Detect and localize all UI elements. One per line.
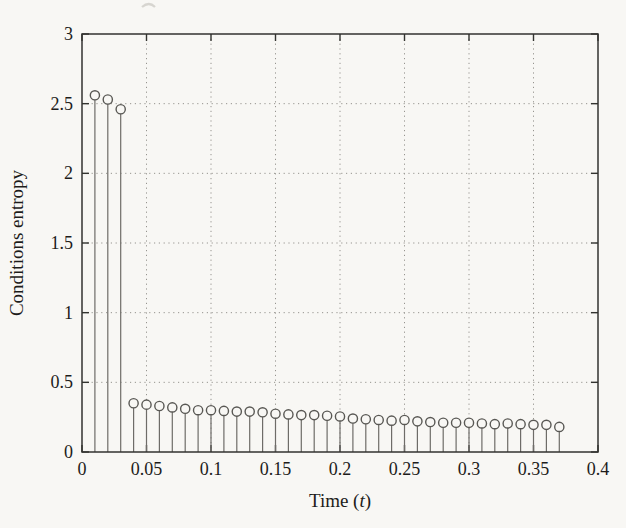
stem-marker-circle [168,403,177,412]
stem-marker-circle [542,420,551,429]
stem-marker-circle [116,105,125,114]
stem-point [374,415,383,452]
stem-point [452,418,461,452]
stem-point [155,401,164,452]
stem-point [310,410,319,452]
stem-point [219,406,228,452]
x-axis-label-text: Time ( [309,490,360,512]
stem-point [464,418,473,452]
stem-marker-circle [387,416,396,425]
tick-labels: 00.050.10.150.20.250.30.350.400.511.522.… [51,24,610,479]
stem-point [400,415,409,452]
stem-marker-circle [477,419,486,428]
x-tick-label: 0.05 [131,459,163,479]
stem-marker-circle [400,415,409,424]
stem-marker-circle [529,420,538,429]
stem-marker-circle [245,407,254,416]
stem-marker-circle [310,410,319,419]
x-tick-label: 0.4 [587,459,610,479]
stem-point [116,105,125,452]
stem-marker-circle [516,420,525,429]
stem-point [348,414,357,452]
x-axis-label: Time (t) [309,490,371,512]
stem-point [555,422,564,452]
stem-point [529,420,538,452]
stem-marker-circle [155,401,164,410]
stem-series [90,91,564,452]
y-tick-label: 0.5 [51,372,74,392]
stem-point [361,415,370,452]
stem-marker-circle [348,414,357,423]
stem-marker-circle [361,415,370,424]
stem-marker-circle [297,410,306,419]
stem-point [206,406,215,452]
stem-marker-circle [439,418,448,427]
stem-marker-circle [335,412,344,421]
stem-point [103,95,112,452]
y-tick-label: 3 [64,24,73,44]
stem-marker-circle [194,406,203,415]
stem-marker-circle [232,407,241,416]
stem-point [232,407,241,452]
stem-chart: 00.050.10.150.20.250.30.350.400.511.522.… [0,0,626,528]
x-tick-label: 0 [78,459,87,479]
stem-marker-circle [323,411,332,420]
stem-marker-circle [452,418,461,427]
stem-point [284,410,293,452]
stem-marker-circle [503,419,512,428]
x-tick-label: 0.3 [458,459,481,479]
stem-point [490,420,499,452]
stem-point [387,416,396,452]
x-tick-label: 0.35 [518,459,550,479]
stem-point [271,409,280,452]
x-tick-label: 0.1 [200,459,223,479]
x-tick-label: 0.2 [329,459,352,479]
stem-marker-circle [219,406,228,415]
x-axis-label-suffix: ) [365,490,371,512]
stem-point [194,406,203,452]
stem-point [542,420,551,452]
y-tick-label: 2 [64,163,73,183]
stem-marker-circle [464,418,473,427]
stem-point [142,400,151,452]
y-tick-label: 1.5 [51,233,74,253]
stem-point [129,399,138,452]
stem-marker-circle [271,409,280,418]
stem-point [413,417,422,452]
y-tick-label: 1 [64,303,73,323]
x-tick-label: 0.25 [389,459,421,479]
stem-point [439,418,448,452]
stem-marker-circle [206,406,215,415]
stem-point [426,417,435,452]
stem-marker-circle [555,422,564,431]
stem-point [335,412,344,452]
stem-marker-circle [103,95,112,104]
stem-point [90,91,99,452]
y-tick-label: 2.5 [51,94,74,114]
figure-scan: 00.050.10.150.20.250.30.350.400.511.522.… [0,0,626,528]
stem-point [245,407,254,452]
stem-point [516,420,525,452]
grid [82,34,598,452]
stem-marker-circle [374,415,383,424]
stem-point [503,419,512,452]
stem-point [181,404,190,452]
stem-point [258,408,267,452]
stem-marker-circle [129,399,138,408]
stem-point [168,403,177,452]
x-tick-label: 0.15 [260,459,292,479]
stem-marker-circle [258,408,267,417]
stem-marker-circle [90,91,99,100]
stem-marker-circle [490,420,499,429]
y-axis-label: Conditions entropy [6,169,27,316]
stem-point [323,411,332,452]
stem-marker-circle [426,417,435,426]
stem-point [477,419,486,452]
stem-marker-circle [413,417,422,426]
y-tick-label: 0 [64,442,73,462]
stem-point [297,410,306,452]
scan-artifact-smudge [142,4,155,7]
stem-marker-circle [142,400,151,409]
stem-marker-circle [181,404,190,413]
stem-marker-circle [284,410,293,419]
